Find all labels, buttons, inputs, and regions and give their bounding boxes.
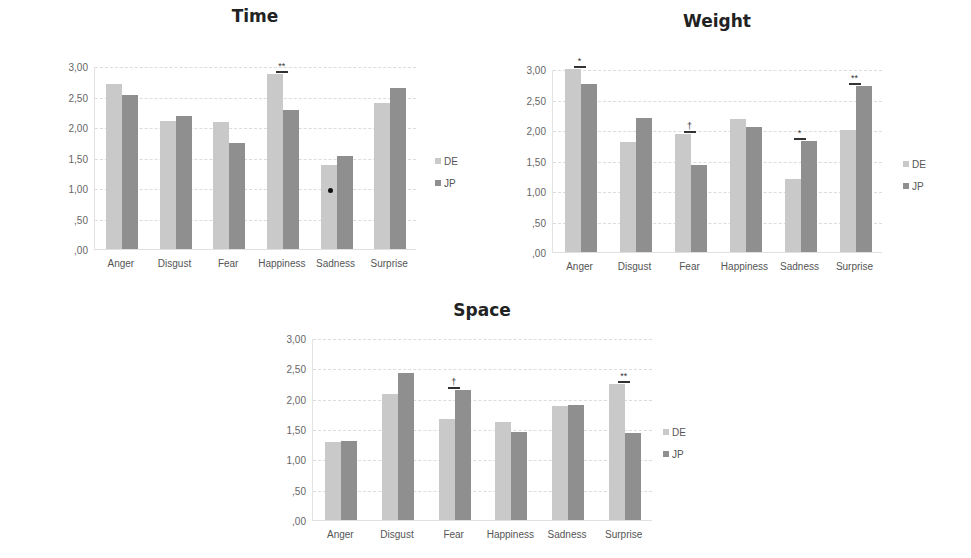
- gridline: [553, 101, 882, 102]
- y-tick-label: ,00: [54, 245, 88, 256]
- bar-jp-sadness: [801, 141, 817, 252]
- gridline: [553, 162, 882, 163]
- gridline: [95, 128, 416, 129]
- y-tick-label: ,50: [54, 214, 88, 225]
- bar-jp-happiness: [746, 127, 762, 252]
- bar-group-sadness: [552, 339, 584, 520]
- bar-group-surprise: [609, 339, 641, 520]
- x-tick-label: Surprise: [589, 529, 659, 540]
- gridline: [95, 159, 416, 160]
- bar-jp-fear: [229, 143, 245, 249]
- legend-swatch-icon: [903, 161, 909, 167]
- significance-marker: †: [442, 378, 466, 389]
- bar-group-fear: [439, 339, 471, 520]
- y-tick-label: ,00: [512, 248, 546, 259]
- y-tick-label: 3,00: [272, 334, 306, 345]
- y-tick-label: ,50: [272, 485, 306, 496]
- y-tick-label: ,50: [512, 217, 546, 228]
- bar-group-surprise: [374, 67, 406, 249]
- bar-group-disgust: [382, 339, 414, 520]
- bar-group-happiness: [495, 339, 527, 520]
- legend-label: JP: [672, 449, 684, 460]
- significance-marker: **: [270, 62, 294, 73]
- bar-de-fear: [213, 122, 229, 249]
- bar-group-surprise: [840, 70, 872, 252]
- bar-de-anger: [325, 442, 341, 520]
- gridline: [313, 460, 652, 461]
- y-tick-label: 3,00: [512, 65, 546, 76]
- legend-item-de: DE: [663, 421, 686, 443]
- significance-marker: *: [788, 129, 812, 140]
- bar-group-disgust: [620, 70, 652, 252]
- bar-de-anger: [565, 69, 581, 252]
- gridline: [95, 67, 416, 68]
- bar-jp-happiness: [283, 110, 299, 249]
- legend-label: DE: [672, 427, 686, 438]
- bar-group-anger: [325, 339, 357, 520]
- bar-jp-fear: [691, 165, 707, 252]
- gridline: [95, 220, 416, 221]
- bar-group-fear: [675, 70, 707, 252]
- y-tick-label: 1,50: [54, 153, 88, 164]
- bar-jp-sadness: [568, 405, 584, 520]
- bar-jp-surprise: [390, 88, 406, 249]
- y-tick-label: 1,50: [512, 156, 546, 167]
- bar-group-anger: [565, 70, 597, 252]
- bar-de-happiness: [495, 422, 511, 520]
- bar-de-happiness: [267, 74, 283, 249]
- x-tick-label: Surprise: [354, 258, 424, 269]
- bar-jp-fear: [455, 390, 471, 520]
- y-tick-label: 1,00: [54, 184, 88, 195]
- plot-area: [94, 67, 416, 250]
- legend-label: DE: [912, 159, 926, 170]
- chart-title: Time: [64, 6, 446, 26]
- y-tick-label: 2,00: [512, 126, 546, 137]
- plot-area: [312, 339, 652, 521]
- bar-group-fear: [213, 67, 245, 249]
- legend-swatch-icon: [663, 429, 669, 435]
- legend-swatch-icon: [663, 451, 669, 457]
- legend-label: JP: [444, 178, 456, 189]
- bar-jp-disgust: [176, 116, 192, 249]
- bar-de-surprise: [609, 384, 625, 521]
- bar-group-sadness: [321, 67, 353, 249]
- gridline: [313, 400, 652, 401]
- legend-label: JP: [912, 181, 924, 192]
- bar-de-disgust: [382, 394, 398, 520]
- bar-de-sadness: [552, 406, 568, 520]
- chart-title: Weight: [522, 11, 912, 31]
- x-tick-label: Surprise: [820, 261, 890, 272]
- legend-label: DE: [444, 156, 458, 167]
- bar-jp-anger: [581, 84, 597, 252]
- gridline: [553, 223, 882, 224]
- plot-area: [552, 70, 882, 253]
- bar-jp-surprise: [856, 86, 872, 252]
- significance-marker: †: [678, 122, 702, 133]
- legend-swatch-icon: [435, 158, 441, 164]
- bar-de-anger: [106, 84, 122, 249]
- point-marker: [328, 188, 333, 193]
- y-tick-label: 2,50: [512, 95, 546, 106]
- y-tick-label: 2,00: [54, 123, 88, 134]
- bar-jp-happiness: [511, 432, 527, 520]
- bar-jp-surprise: [625, 433, 641, 520]
- legend-item-jp: JP: [903, 175, 926, 197]
- legend-swatch-icon: [903, 183, 909, 189]
- legend-item-jp: JP: [663, 443, 686, 465]
- bar-jp-anger: [341, 441, 357, 520]
- legend: DEJP: [663, 421, 686, 465]
- gridline: [313, 369, 652, 370]
- y-tick-label: 1,50: [272, 425, 306, 436]
- bar-de-happiness: [730, 119, 746, 252]
- bar-de-sadness: [785, 179, 801, 252]
- y-tick-label: 2,50: [272, 364, 306, 375]
- bar-de-disgust: [160, 121, 176, 249]
- legend-item-jp: JP: [435, 172, 458, 194]
- bar-de-fear: [675, 134, 691, 252]
- bar-de-surprise: [840, 130, 856, 252]
- bar-jp-sadness: [337, 156, 353, 249]
- bar-de-sadness: [321, 165, 337, 249]
- bar-jp-disgust: [398, 373, 414, 520]
- significance-marker: **: [612, 372, 636, 383]
- y-tick-label: 3,00: [54, 62, 88, 73]
